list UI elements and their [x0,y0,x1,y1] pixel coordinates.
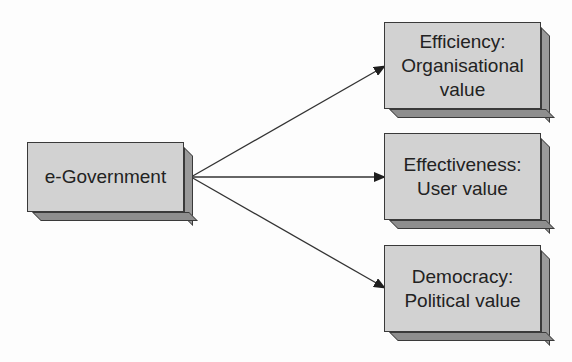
box-face: Effectiveness: User value [384,133,541,220]
box-label-line2: Political value [404,289,520,313]
box-bottom-edge [32,212,198,221]
box-democracy: Democracy: Political value [384,245,550,341]
box-label-line1: Democracy: [412,265,513,289]
box-face: e-Government [27,142,184,212]
arrow-to-democracy [191,177,385,288]
box-label-line1: Efficiency: [419,30,505,54]
box-label-line2: Organisational [401,54,524,78]
box-face: Efficiency: Organisational value [384,22,541,109]
box-effectiveness: Effectiveness: User value [384,133,550,229]
box-label-line1: Effectiveness: [404,153,522,177]
box-e-government: e-Government [27,142,193,221]
box-efficiency: Efficiency: Organisational value [384,22,550,118]
box-bottom-edge [389,332,555,341]
diagram-canvas: e-Government Efficiency: Organisational … [0,0,572,362]
arrow-to-efficiency [191,66,385,177]
box-bottom-edge [389,109,555,118]
box-label: e-Government [45,165,166,189]
box-label-line3: value [440,78,485,102]
box-face: Democracy: Political value [384,245,541,332]
box-label-line2: User value [417,177,508,201]
box-bottom-edge [389,220,555,229]
